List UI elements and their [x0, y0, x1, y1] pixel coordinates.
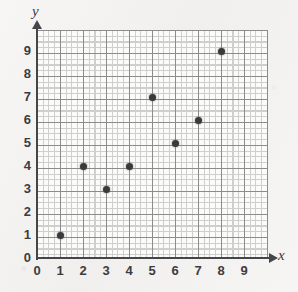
y-tick-label-1: 1	[17, 227, 31, 242]
y-tick-label-5: 5	[17, 135, 31, 150]
x-tick-label-0: 0	[29, 263, 45, 278]
x-tick-label-3: 3	[98, 263, 114, 278]
y-tick-label-3: 3	[17, 181, 31, 196]
data-point	[149, 94, 156, 101]
data-point	[172, 140, 179, 147]
y-axis-arrow-icon	[32, 20, 42, 29]
y-tick-label-0: 0	[17, 250, 31, 265]
x-axis-label: x	[278, 247, 285, 264]
y-axis-line	[36, 28, 38, 260]
data-point	[103, 186, 110, 193]
y-tick-label-9: 9	[17, 43, 31, 58]
x-axis-line	[36, 257, 273, 259]
plot-grid	[37, 30, 268, 258]
data-point	[57, 232, 64, 239]
y-axis-label: y	[32, 3, 39, 20]
data-point	[80, 163, 87, 170]
x-tick-label-6: 6	[167, 263, 183, 278]
y-tick-label-2: 2	[17, 204, 31, 219]
x-tick-label-2: 2	[75, 263, 91, 278]
x-tick-label-1: 1	[52, 263, 68, 278]
data-point	[126, 163, 133, 170]
x-axis-arrow-icon	[269, 253, 278, 263]
y-tick-label-8: 8	[17, 66, 31, 81]
data-point	[218, 48, 225, 55]
x-tick-label-4: 4	[121, 263, 137, 278]
x-tick-label-9: 9	[236, 263, 252, 278]
x-tick-label-7: 7	[190, 263, 206, 278]
y-tick-label-7: 7	[17, 89, 31, 104]
y-tick-label-6: 6	[17, 112, 31, 127]
data-point	[195, 117, 202, 124]
scatter-plot-figure: y x 0123456789 0123456789	[0, 0, 298, 292]
x-tick-label-8: 8	[213, 263, 229, 278]
y-tick-label-4: 4	[17, 158, 31, 173]
x-tick-label-5: 5	[144, 263, 160, 278]
